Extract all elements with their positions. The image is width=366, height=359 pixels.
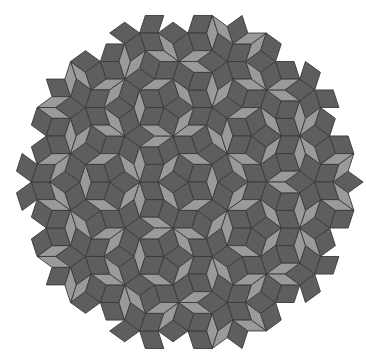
tiles-group: [16, 15, 363, 348]
penrose-tiling: Penrose rhombus tiling (P3): [0, 0, 366, 359]
thin-rhomb-tile: [140, 331, 164, 349]
thin-rhomb-tile: [140, 15, 164, 33]
